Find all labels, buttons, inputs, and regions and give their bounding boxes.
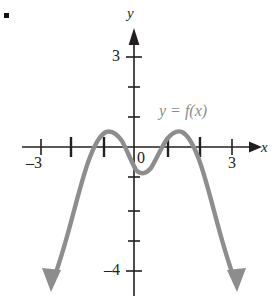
- x-axis-label: x: [261, 140, 268, 155]
- y-tick-label--4: –4: [104, 262, 120, 278]
- curve-equation-label: y = f(x): [159, 103, 207, 119]
- curve-right-arrowhead: [227, 268, 246, 292]
- graph-svg: [0, 0, 272, 298]
- y-axis-arrowhead: [129, 28, 140, 45]
- origin-label: 0: [137, 150, 145, 166]
- curve-left-arrowhead: [42, 268, 61, 292]
- y-axis-label: y: [127, 6, 134, 21]
- x-tick-label-3: 3: [228, 155, 236, 171]
- figure-canvas: y x 3 –4 –3 3 0 y = f(x): [0, 0, 272, 298]
- y-tick-label-3: 3: [112, 48, 120, 64]
- x-tick-label--3: –3: [26, 155, 42, 171]
